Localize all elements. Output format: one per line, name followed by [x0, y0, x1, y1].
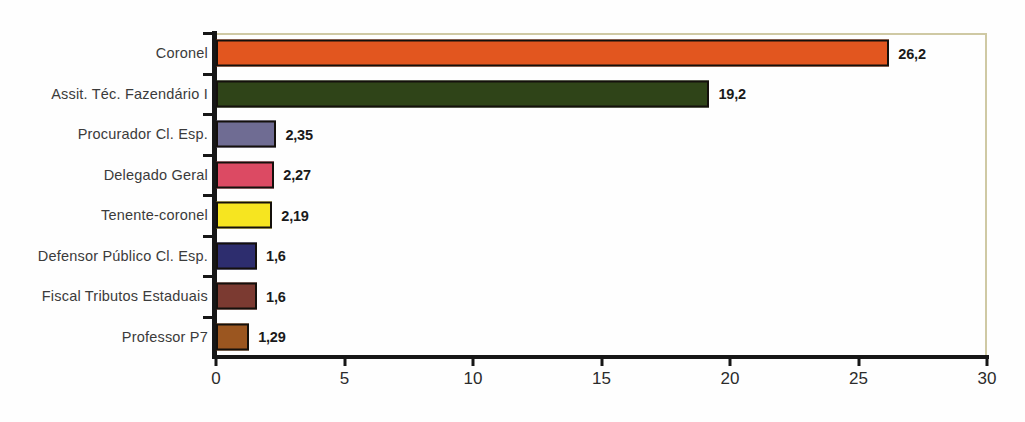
category-label: Defensor Público Cl. Esp.	[38, 248, 208, 264]
bar-group: 1,6	[216, 283, 286, 310]
bar[interactable]	[216, 121, 276, 148]
bar-value-label: 1,6	[266, 288, 286, 304]
x-axis-tick	[857, 357, 860, 366]
bar-group: 19,2	[216, 80, 746, 107]
y-axis-tick	[203, 73, 217, 76]
x-axis-tick-label: 0	[211, 369, 220, 389]
x-axis-tick	[472, 357, 475, 366]
x-axis-tick	[215, 357, 218, 366]
bar-row: Procurador Cl. Esp.2,35	[0, 114, 1025, 155]
category-label: Tenente-coronel	[101, 207, 208, 223]
category-label: Coronel	[156, 45, 208, 61]
bar[interactable]	[216, 283, 257, 310]
bar[interactable]	[216, 202, 272, 229]
bar-rows: Coronel26,2Assit. Téc. Fazendário I19,2P…	[0, 33, 1025, 357]
bar-group: 26,2	[216, 40, 926, 67]
x-axis-tick	[343, 357, 346, 366]
bar[interactable]	[216, 161, 274, 188]
category-label: Fiscal Tributos Estaduais	[42, 288, 208, 304]
bar-value-label: 1,29	[258, 329, 285, 345]
y-axis-tick	[203, 113, 217, 116]
y-axis-tick	[203, 316, 217, 319]
x-axis-tick-label: 5	[340, 369, 349, 389]
bar-group: 1,29	[216, 323, 286, 350]
bar-row: Delegado Geral2,27	[0, 155, 1025, 196]
bar-group: 1,6	[216, 242, 286, 269]
bar-value-label: 1,6	[266, 248, 286, 264]
x-axis-tick	[729, 357, 732, 366]
bar[interactable]	[216, 242, 257, 269]
bar-row: Assit. Téc. Fazendário I19,2	[0, 74, 1025, 115]
bar[interactable]	[216, 323, 249, 350]
bar-row: Tenente-coronel2,19	[0, 195, 1025, 236]
x-axis-tick-label: 10	[464, 369, 483, 389]
x-axis-tick-label: 25	[849, 369, 868, 389]
bar-value-label: 2,27	[283, 167, 310, 183]
bar[interactable]	[216, 40, 889, 67]
bar-group: 2,19	[216, 202, 309, 229]
bar-group: 2,35	[216, 121, 313, 148]
bar-value-label: 2,35	[285, 126, 312, 142]
y-axis-tick	[203, 235, 217, 238]
category-label: Professor P7	[122, 329, 208, 345]
x-axis-tick	[600, 357, 603, 366]
category-label: Assit. Téc. Fazendário I	[51, 86, 208, 102]
category-label: Procurador Cl. Esp.	[78, 126, 208, 142]
bar-group: 2,27	[216, 161, 311, 188]
bar-row: Defensor Público Cl. Esp.1,6	[0, 236, 1025, 277]
bar-value-label: 2,19	[281, 207, 308, 223]
y-axis-tick	[203, 154, 217, 157]
x-axis-tick	[986, 357, 989, 366]
bar[interactable]	[216, 80, 709, 107]
bar-row: Fiscal Tributos Estaduais1,6	[0, 276, 1025, 317]
y-axis-tick	[203, 275, 217, 278]
x-axis-ticks: 051015202530	[0, 357, 1025, 417]
x-axis-tick-label: 30	[978, 369, 997, 389]
y-axis-tick	[203, 32, 217, 35]
bar-value-label: 26,2	[898, 45, 925, 61]
bar-chart: Coronel26,2Assit. Téc. Fazendário I19,2P…	[0, 0, 1025, 422]
bar-row: Coronel26,2	[0, 33, 1025, 74]
bar-value-label: 19,2	[718, 86, 745, 102]
x-axis-tick-label: 20	[721, 369, 740, 389]
category-label: Delegado Geral	[104, 167, 208, 183]
bar-row: Professor P71,29	[0, 317, 1025, 358]
y-axis-tick	[203, 194, 217, 197]
x-axis-tick-label: 15	[592, 369, 611, 389]
